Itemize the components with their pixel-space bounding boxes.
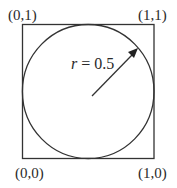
- unit-square-circle-diagram: (0,1) (1,1) (0,0) (1,0) r = 0.5: [0, 0, 177, 188]
- unit-square: [23, 25, 155, 159]
- label-bottom-left: (0,0): [15, 165, 44, 182]
- inscribed-circle: [22, 25, 154, 159]
- label-top-left: (0,1): [8, 7, 37, 24]
- label-top-right: (1,1): [138, 7, 167, 24]
- label-bottom-right: (1,0): [138, 165, 167, 182]
- radius-label-value: = 0.5: [77, 55, 114, 72]
- radius-label: r = 0.5: [71, 55, 114, 72]
- radius-arrowhead-icon: [128, 48, 138, 58]
